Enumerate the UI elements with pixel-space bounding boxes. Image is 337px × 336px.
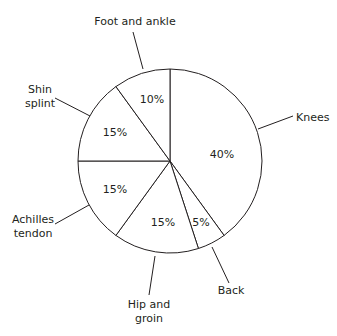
label-hip-1: Hip and <box>128 298 171 311</box>
leader-line-knees <box>258 116 293 129</box>
pie-chart: 40% 5% 15% 15% 15% 10% Knees Back Hip an… <box>0 0 337 336</box>
label-knees: Knees <box>296 111 330 124</box>
label-achilles-2: tendon <box>14 227 53 240</box>
pct-knees: 40% <box>210 148 234 161</box>
pct-achilles: 15% <box>103 183 127 196</box>
leader-line-shin <box>55 98 90 116</box>
pct-shin: 15% <box>103 126 127 139</box>
label-shin-1: Shin <box>28 83 52 96</box>
leader-line-back <box>212 247 229 283</box>
pct-hip: 15% <box>151 216 175 229</box>
label-hip-2: groin <box>135 312 163 325</box>
pct-foot: 10% <box>140 93 164 106</box>
leader-line-achilles <box>55 205 89 224</box>
leader-line-foot <box>133 32 143 69</box>
pct-back: 5% <box>192 216 209 229</box>
label-back: Back <box>218 284 245 297</box>
leader-line-hip <box>149 256 155 295</box>
label-achilles-1: Achilles <box>12 213 54 226</box>
label-foot: Foot and ankle <box>94 15 176 28</box>
label-shin-2: splint <box>25 97 56 110</box>
